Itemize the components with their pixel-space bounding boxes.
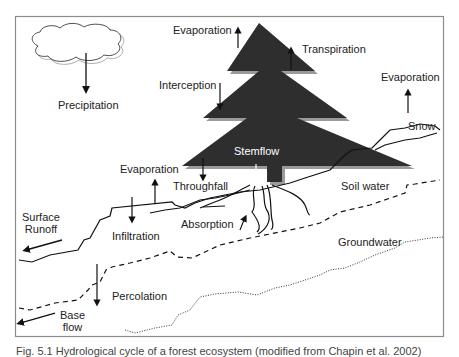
absorption-arrow xyxy=(240,218,245,230)
label-surface-runoff-line2: Runoff xyxy=(22,223,60,235)
label-absorption: Absorption xyxy=(181,218,234,230)
label-stemflow: Stemflow xyxy=(234,145,279,157)
label-infiltration: Infiltration xyxy=(112,230,160,242)
label-transpiration: Transpiration xyxy=(302,43,366,55)
left-sub-ground xyxy=(203,206,225,207)
label-interception: Interception xyxy=(159,79,216,91)
figure-caption: Fig. 5.1 Hydrological cycle of a forest … xyxy=(16,345,421,357)
label-precipitation: Precipitation xyxy=(58,99,119,111)
label-snow: Snow xyxy=(408,120,436,132)
figure-frame xyxy=(16,17,444,337)
label-base-flow: Base flow xyxy=(60,309,85,333)
surface-runoff-arrow xyxy=(26,240,62,250)
label-percolation: Percolation xyxy=(112,290,167,302)
label-groundwater: Groundwater xyxy=(338,236,402,248)
label-evaporation-left: Evaporation xyxy=(120,163,179,175)
label-base-flow-line2: flow xyxy=(60,321,85,333)
label-soil-water: Soil water xyxy=(341,180,389,192)
tree-icon xyxy=(182,23,412,182)
label-evaporation-right: Evaporation xyxy=(381,71,440,83)
label-throughfall: Throughfall xyxy=(173,180,228,192)
groundwater-table xyxy=(125,237,443,333)
label-surface-runoff: Surface Runoff xyxy=(22,211,60,235)
label-base-flow-line1: Base xyxy=(60,309,85,321)
label-surface-runoff-line1: Surface xyxy=(22,211,60,223)
base-flow-arrow xyxy=(20,313,55,323)
label-evaporation-top: Evaporation xyxy=(173,24,232,36)
cloud-icon xyxy=(32,23,124,64)
